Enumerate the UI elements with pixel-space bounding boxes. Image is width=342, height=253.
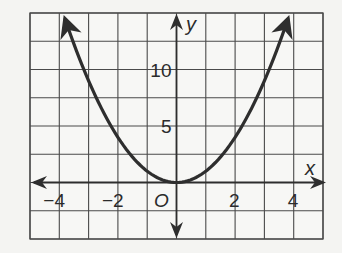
x-tick-label: 4 <box>288 190 299 211</box>
x-axis-label: x <box>304 157 316 179</box>
y-axis-label: y <box>184 13 197 35</box>
origin-label: O <box>154 190 169 211</box>
x-tick-label: −4 <box>43 190 65 211</box>
x-tick-label: 2 <box>229 190 240 211</box>
y-tick-label: 5 <box>161 116 172 137</box>
parabola-chart: −4−224 510 x y O <box>0 0 342 253</box>
y-tick-label: 10 <box>150 60 171 81</box>
x-tick-label: −2 <box>102 190 124 211</box>
